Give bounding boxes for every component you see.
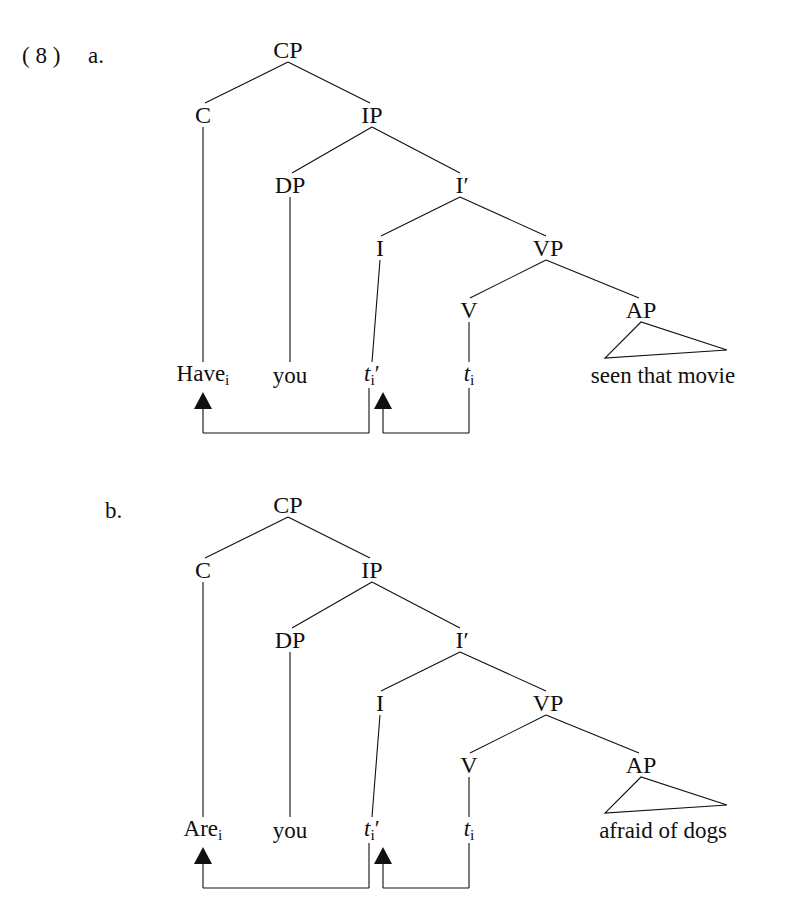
edge-ibar-to-vp-0: [460, 197, 546, 236]
edge-vp-to-v-0: [470, 260, 546, 298]
leaf-leaf-i-1: ti′: [364, 817, 380, 843]
leaf-leaf-dp-0: you: [273, 364, 308, 387]
node-v-1: V: [460, 753, 477, 777]
node-dp-1: DP: [275, 628, 306, 652]
node-v-0: V: [460, 298, 477, 322]
node-dp-0: DP: [275, 173, 306, 197]
node-cp-1: CP: [273, 493, 302, 517]
page-canvas: ( 8 )a.CPCIPDPI′IVPVAPHaveiyouti′tiseen …: [0, 0, 788, 924]
node-cp-0: CP: [273, 38, 302, 62]
node-vp-1: VP: [533, 691, 564, 715]
node-c-0: C: [195, 103, 211, 127]
edge-cp-to-ip-1: [288, 517, 370, 558]
node-ibar-1: I′: [455, 628, 468, 652]
edge-ip-to-dp-0: [292, 127, 372, 173]
leaf-leaf-c-0: Havei: [177, 362, 230, 388]
phrase-ap-phrase-0: seen that movie: [591, 364, 735, 387]
edge-ibar-to-i-1: [381, 652, 460, 691]
edge-vp-to-v-1: [470, 715, 546, 753]
node-i-0: I: [376, 236, 384, 260]
example-number: ( 8 ): [22, 43, 60, 69]
edge-cp-to-ip-0: [288, 62, 370, 103]
leaf-leaf-v-1: ti: [464, 817, 475, 843]
node-vp-0: VP: [533, 236, 564, 260]
edge-ip-to-ibar-0: [372, 127, 460, 173]
edge-ibar-to-vp-1: [460, 652, 546, 691]
phrase-ap-phrase-1: afraid of dogs: [599, 819, 727, 842]
node-c-1: C: [195, 558, 211, 582]
leaf-leaf-c-1: Arei: [184, 817, 223, 843]
ap-triangle-0: [605, 322, 727, 358]
node-ap-1: AP: [626, 753, 657, 777]
edge-vp-to-ap-1: [546, 715, 639, 753]
node-ip-0: IP: [361, 103, 382, 127]
item-letter-0: a.: [88, 43, 104, 69]
edge-ip-to-dp-1: [292, 582, 372, 628]
leaf-leaf-v-0: ti: [464, 362, 475, 388]
ap-triangle-1: [605, 777, 727, 813]
leaf-leaf-i-0: ti′: [364, 362, 380, 388]
tree-lines-layer: [0, 0, 788, 924]
edge-vp-to-ap-0: [546, 260, 639, 298]
item-letter-1: b.: [105, 498, 122, 524]
edge-i-to-leaf-1: [372, 715, 380, 817]
node-ip-1: IP: [361, 558, 382, 582]
edge-ibar-to-i-0: [381, 197, 460, 236]
mv-arrow-v-to-i-head-0: [374, 392, 392, 409]
node-ap-0: AP: [626, 298, 657, 322]
edge-cp-to-c-1: [205, 517, 288, 558]
leaf-leaf-dp-1: you: [273, 819, 308, 842]
node-i-1: I: [376, 691, 384, 715]
mv-arrow-head-to-c-head-1: [194, 847, 212, 864]
node-ibar-0: I′: [455, 173, 468, 197]
mv-arrow-head-to-c-head-0: [194, 392, 212, 409]
edge-cp-to-c-0: [205, 62, 288, 103]
mv-arrow-v-to-i-head-1: [374, 847, 392, 864]
edge-i-to-leaf-0: [372, 260, 380, 362]
edge-ip-to-ibar-1: [372, 582, 460, 628]
